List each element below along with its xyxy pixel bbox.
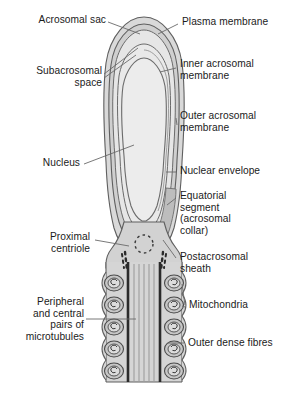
mitochondrion: [105, 297, 124, 313]
label-subacrosomal-space: Subacrosomal space: [6, 65, 102, 88]
mitochondrion: [165, 275, 184, 291]
label-nuclear-envelope: Nuclear envelope: [180, 165, 286, 177]
mitochondrion: [105, 319, 124, 335]
mitochondrion: [165, 297, 184, 313]
label-plasma-membrane: Plasma membrane: [182, 16, 286, 28]
label-proximal-centriole: Proximal centriole: [6, 231, 90, 254]
mitochondrion: [105, 341, 124, 357]
label-outer-dense-fibres: Outer dense fibres: [188, 337, 288, 349]
nucleus-shape: [121, 58, 166, 221]
mitochondrion: [165, 319, 184, 335]
label-microtubules: Peripheral and central pairs of microtub…: [2, 296, 84, 342]
mitochondrion: [165, 363, 184, 379]
mitochondrion: [105, 363, 124, 379]
label-acrosomal-sac: Acrosomal sac: [8, 14, 106, 26]
label-nucleus: Nucleus: [6, 157, 80, 169]
label-equatorial-segment: Equatorial segment (acrosomal collar): [180, 190, 282, 236]
diagram-canvas: Acrosomal sac Plasma membrane Subacrosom…: [0, 0, 288, 394]
label-inner-acrosomal-membrane: Inner acrosomal membrane: [180, 58, 286, 81]
label-mitochondria: Mitochondria: [189, 299, 285, 311]
label-postacrosomal-sheath: Postacrosomal sheath: [180, 251, 284, 274]
mitochondrion: [105, 275, 124, 291]
label-outer-acrosomal-membrane: Outer acrosomal membrane: [180, 110, 286, 133]
